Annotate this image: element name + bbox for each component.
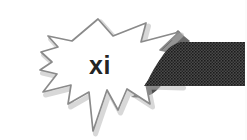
folio-page-number: xi: [0, 50, 200, 80]
scan-edge-sliver: [245, 0, 247, 140]
page-canvas: xi: [0, 0, 247, 140]
